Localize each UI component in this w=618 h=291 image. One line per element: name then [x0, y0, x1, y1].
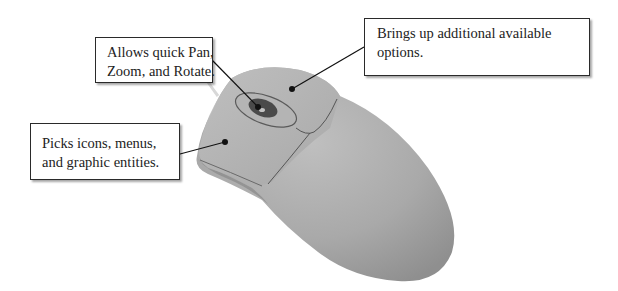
callout-right-line-2: options. — [377, 43, 579, 62]
callout-left-line-1: Picks icons, menus, — [42, 134, 169, 153]
callout-right-line-1: Brings up additional available — [377, 24, 579, 43]
leader-dot-scroll — [255, 104, 261, 110]
callout-right-button: Brings up additional available options. — [364, 18, 590, 76]
callout-scroll-wheel: Allows quick Pan, Zoom, and Rotate. — [95, 37, 213, 83]
leader-dot-right-button — [289, 86, 295, 92]
callout-left-line-2: and graphic entities. — [42, 153, 169, 172]
mouse-cable — [208, 82, 218, 96]
mouse-diagram-figure: Allows quick Pan, Zoom, and Rotate. Brin… — [0, 0, 618, 291]
leader-dot-left-button — [222, 139, 228, 145]
callout-scroll-line-2: Zoom, and Rotate. — [107, 62, 202, 81]
callout-left-button: Picks icons, menus, and graphic entities… — [30, 123, 180, 180]
callout-scroll-line-1: Allows quick Pan, — [107, 43, 202, 62]
